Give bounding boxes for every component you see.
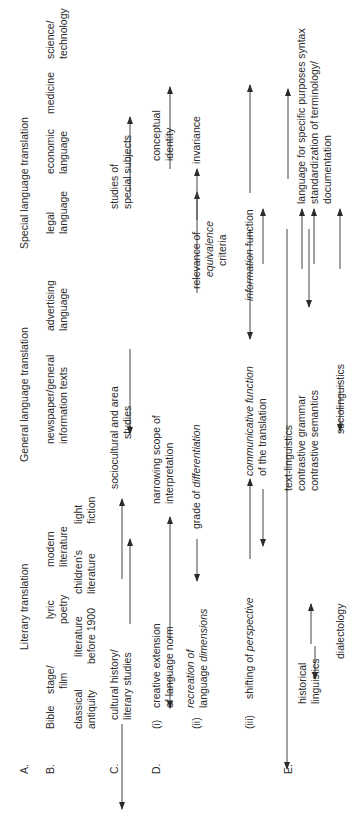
text-type-advertising-language: language bbox=[57, 288, 70, 331]
differentiation-word: differentiation bbox=[190, 425, 202, 488]
text-type-film: film bbox=[57, 673, 70, 689]
row-label-c: C. bbox=[108, 764, 121, 775]
d-iii-label: (iii) bbox=[243, 715, 256, 729]
text-linguistics: text-linguistics bbox=[282, 425, 295, 491]
equivalence: equivalence bbox=[203, 221, 216, 277]
documentation: documentation bbox=[321, 135, 334, 204]
dialectology: dialectology bbox=[334, 604, 347, 659]
text-type-economic-language: language bbox=[57, 131, 70, 174]
contrastive-grammar: contrastive grammar bbox=[295, 395, 308, 491]
text-type-science: science/ bbox=[44, 20, 57, 59]
d-i-label: (i) bbox=[150, 720, 163, 729]
historical: historical bbox=[296, 663, 309, 704]
studies-of: studies of bbox=[108, 164, 121, 209]
text-type-legal-language: language bbox=[57, 191, 70, 234]
row-label-b: B. bbox=[44, 764, 57, 774]
heading-general-language-translation: General language translation bbox=[18, 327, 31, 462]
dimensions-word: dimensions bbox=[197, 609, 209, 662]
criteria: criteria bbox=[216, 234, 229, 266]
heading-literary-translation: Literary translation bbox=[18, 564, 31, 650]
shifting-of-word: shifting of bbox=[243, 651, 255, 699]
of-language-norm: of language norm bbox=[163, 626, 176, 708]
text-type-poetry: poetry bbox=[57, 595, 70, 624]
text-type-modern-literature: literature bbox=[57, 526, 70, 567]
special-subjects: special subjects bbox=[121, 135, 134, 209]
text-type-antiquity: antiquity bbox=[85, 690, 98, 729]
text-type-economic: economic bbox=[44, 129, 57, 174]
perspective-word: perspective bbox=[243, 597, 255, 651]
literary-studies: literary studies bbox=[121, 652, 134, 720]
cultural-history: cultural history/ bbox=[108, 649, 121, 720]
relevance-of: relevance of bbox=[190, 232, 203, 289]
of-the-translation: of the translation bbox=[256, 398, 269, 476]
text-type-before-1900: before 1900 bbox=[85, 608, 98, 664]
text-type-information-texts: information texts bbox=[57, 367, 70, 444]
invariance: invariance bbox=[190, 116, 203, 164]
text-type-fiction: fiction bbox=[85, 497, 98, 524]
linguistics: linguistics bbox=[309, 658, 322, 704]
row-label-d: D. bbox=[150, 764, 163, 775]
standardization-terminology: standardization of terminology/ bbox=[308, 61, 321, 204]
sociolinguistics: sociolinguistics bbox=[334, 364, 347, 434]
contrastive-semantics: contrastive semantics bbox=[308, 390, 321, 491]
text-type-legal: legal bbox=[44, 212, 57, 234]
heading-special-language-translation: Special language translation bbox=[18, 117, 31, 249]
text-type-advertising: advertising bbox=[44, 280, 57, 331]
identity: identity bbox=[163, 128, 176, 161]
narrowing-scope: narrowing scope of bbox=[150, 415, 163, 504]
sociocultural-area: sociocultural and area bbox=[108, 386, 121, 489]
row-label-e: E. bbox=[282, 764, 295, 774]
text-type-technology: technology bbox=[57, 8, 70, 59]
d-ii-label: (ii) bbox=[190, 717, 203, 729]
text-type-childrens-literature: literature bbox=[85, 553, 98, 594]
function-word: function bbox=[243, 209, 255, 249]
grade-of-word: grade of bbox=[190, 488, 202, 529]
text-type-childrens: children's bbox=[72, 550, 85, 594]
conceptual: conceptual bbox=[150, 110, 163, 161]
communicative-function: communicative function bbox=[243, 366, 256, 476]
text-type-modern: modern bbox=[44, 531, 57, 567]
information-word: information bbox=[243, 249, 255, 301]
row-label-a: A. bbox=[18, 764, 31, 774]
language-word: language bbox=[197, 662, 209, 708]
language-dimensions: language dimensions bbox=[197, 609, 210, 708]
text-type-bible: Bible bbox=[44, 706, 57, 729]
text-type-light: light bbox=[72, 505, 85, 524]
text-type-medicine: medicine bbox=[44, 72, 57, 114]
text-type-lyric: lyric bbox=[44, 600, 57, 619]
interpretation: interpretation bbox=[163, 443, 176, 504]
text-type-classical: classical bbox=[72, 689, 85, 729]
information-function: information function bbox=[243, 209, 256, 301]
grade-of-differentiation: grade of differentiation bbox=[190, 425, 203, 530]
sociocultural-studies: studies bbox=[121, 406, 134, 439]
shifting-of-perspective: shifting of perspective bbox=[243, 597, 256, 699]
text-type-stage: stage/ bbox=[44, 665, 57, 694]
text-type-newspaper: newspaper/general bbox=[44, 355, 57, 444]
creative-extension: creative extension bbox=[150, 623, 163, 708]
lsp-syntax: language for specific purposes syntax bbox=[295, 28, 308, 204]
text-type-literature: literature bbox=[72, 616, 85, 657]
recreation-of: recreation of bbox=[184, 650, 197, 708]
